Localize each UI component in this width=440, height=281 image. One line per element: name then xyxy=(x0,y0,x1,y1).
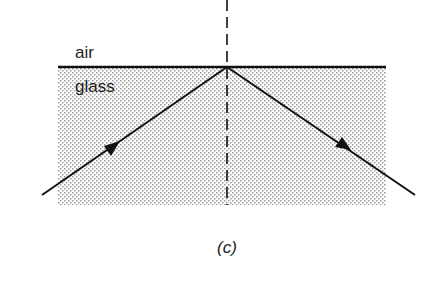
reflection-diagram: air glass (c) xyxy=(0,0,440,281)
glass-label: glass xyxy=(75,77,115,96)
air-label: air xyxy=(75,43,94,62)
figure-caption: (c) xyxy=(217,238,237,257)
